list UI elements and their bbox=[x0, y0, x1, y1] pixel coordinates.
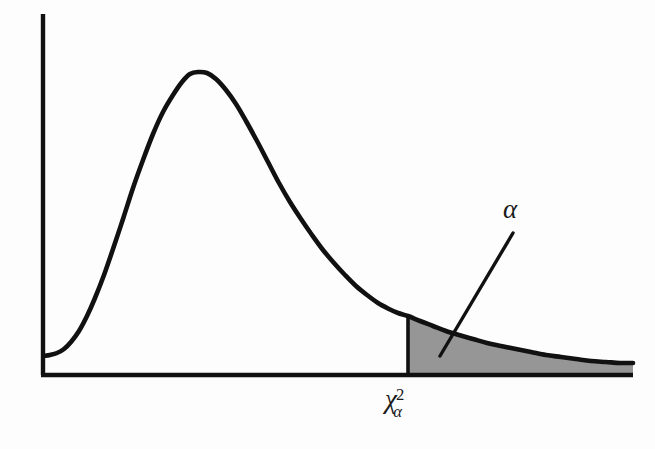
alpha-leader-line bbox=[440, 233, 513, 356]
density-curve bbox=[44, 72, 633, 363]
alpha-area-label: α bbox=[503, 196, 517, 223]
chi-square-distribution-figure: χ2α α bbox=[0, 0, 655, 449]
shaded-tail-region bbox=[408, 316, 633, 375]
chi-square-plot bbox=[0, 0, 655, 449]
chi-subscript-alpha: α bbox=[393, 402, 402, 421]
critical-value-label: χ2α bbox=[385, 385, 414, 418]
